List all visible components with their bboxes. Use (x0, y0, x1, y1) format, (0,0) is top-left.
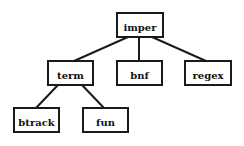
node-label: term (57, 70, 84, 81)
edge-term-btrack (36, 85, 58, 108)
node-term: term (47, 60, 94, 86)
node-label: fun (96, 117, 115, 128)
edge-imper-regex (152, 37, 206, 61)
edge-imper-term (74, 37, 128, 61)
node-label: imper (123, 22, 156, 33)
node-fun: fun (82, 107, 129, 133)
node-label: btrack (18, 117, 54, 128)
edge-term-fun (82, 85, 104, 108)
node-imper: imper (116, 12, 164, 38)
node-bnf: bnf (116, 60, 163, 86)
node-label: bnf (130, 70, 149, 81)
node-label: regex (193, 70, 224, 81)
node-btrack: btrack (13, 107, 60, 133)
tree-diagram: imper term bnf regex btrack fun (0, 0, 244, 146)
node-regex: regex (184, 60, 232, 86)
